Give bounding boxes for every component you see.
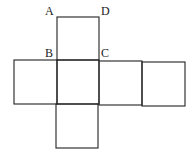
label-b: B [45, 46, 53, 60]
label-d: D [101, 4, 110, 18]
cube-net-diagram: A D B C [0, 0, 194, 161]
label-c: C [101, 46, 109, 60]
bottom-square [56, 104, 98, 148]
top-square [57, 17, 99, 60]
label-a: A [45, 4, 54, 18]
right-square [99, 61, 142, 105]
far-right-square [142, 62, 185, 106]
left-square [14, 60, 57, 104]
center-square [57, 60, 99, 104]
